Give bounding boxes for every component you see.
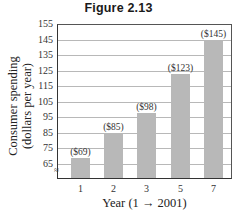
bar-value-label: ($145) <box>194 29 234 39</box>
x-tick-label: 7 <box>204 184 224 194</box>
bar <box>137 113 156 178</box>
y-tick-label: 65 <box>23 159 53 169</box>
bar <box>204 40 223 178</box>
chart-title: Figure 2.13 <box>0 1 237 15</box>
x-tick-label: 3 <box>137 184 157 194</box>
bar-value-label: ($98) <box>127 102 167 112</box>
bar-value-label: ($123) <box>161 63 201 73</box>
y-tick-label: 155 <box>23 19 53 29</box>
bar <box>71 158 90 178</box>
y-tick-label: 115 <box>23 81 53 91</box>
y-tick-label: 145 <box>23 35 53 45</box>
x-tick-label: 1 <box>71 184 91 194</box>
y-tick-label: 85 <box>23 128 53 138</box>
bar <box>171 74 190 178</box>
y-axis-label-line1: Consumer spending <box>6 36 20 176</box>
y-tick-label: 135 <box>23 50 53 60</box>
bar-value-label: ($85) <box>94 122 134 132</box>
y-tick-label: 75 <box>23 143 53 153</box>
bar-value-label: ($69) <box>61 147 101 157</box>
y-tick-label: 105 <box>23 97 53 107</box>
x-tick-label: 2 <box>104 184 124 194</box>
y-tick-label: 125 <box>23 66 53 76</box>
x-tick-label: 5 <box>171 184 191 194</box>
y-tick-label: 95 <box>23 112 53 122</box>
bar <box>104 133 123 178</box>
axis-break-icon: ≈ <box>54 166 59 174</box>
x-axis-label: Year (1 → 2001) <box>57 196 232 211</box>
